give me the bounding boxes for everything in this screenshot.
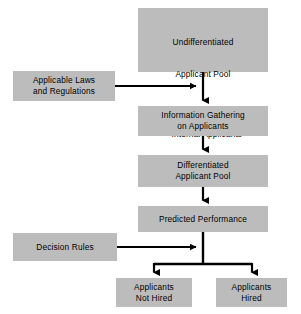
node-label-line-1: Predicted Performance	[159, 214, 247, 225]
node-title: Undifferentiated Applicant Pool	[173, 16, 234, 101]
node-information-gathering-on-applicants: Information Gathering on Applicants	[138, 106, 268, 136]
node-label-line-1: Differentiated	[177, 160, 228, 171]
node-label-line-2: and Regulations	[33, 86, 95, 97]
node-label-line-2: Applicant Pool	[175, 171, 230, 182]
node-applicants-not-hired: Applicants Not Hired	[116, 278, 192, 307]
node-label-line-2: on Applicants	[177, 121, 228, 132]
node-label-line-2: Hired	[241, 293, 262, 304]
node-undifferentiated-applicant-pool: Undifferentiated Applicant Pool —Interna…	[138, 8, 268, 72]
node-label-line-1: Information Gathering	[161, 110, 244, 121]
node-differentiated-applicant-pool: Differentiated Applicant Pool	[138, 155, 268, 187]
node-label-line-1: Applicable Laws	[33, 75, 95, 86]
node-predicted-performance: Predicted Performance	[138, 206, 268, 232]
node-title-line-1: Undifferentiated	[173, 37, 234, 48]
node-label-line-2: Not Hired	[136, 293, 172, 304]
node-label-line-1: Applicants	[232, 282, 272, 293]
node-title-line-2: Applicant Pool	[173, 69, 234, 80]
node-applicable-laws-and-regulations: Applicable Laws and Regulations	[13, 71, 115, 101]
node-decision-rules: Decision Rules	[13, 233, 117, 261]
node-label-line-1: Decision Rules	[36, 242, 93, 253]
node-label-line-1: Applicants	[134, 282, 174, 293]
node-applicants-hired: Applicants Hired	[216, 278, 287, 307]
flowchart-canvas: Undifferentiated Applicant Pool —Interna…	[0, 0, 301, 314]
